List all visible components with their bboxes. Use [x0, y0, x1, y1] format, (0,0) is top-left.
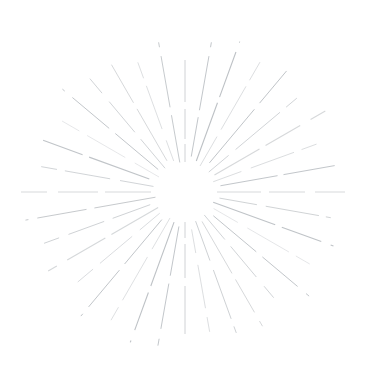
canvas-background — [0, 0, 368, 382]
sunburst-graphic — [0, 0, 368, 382]
illustration-canvas — [0, 0, 368, 382]
